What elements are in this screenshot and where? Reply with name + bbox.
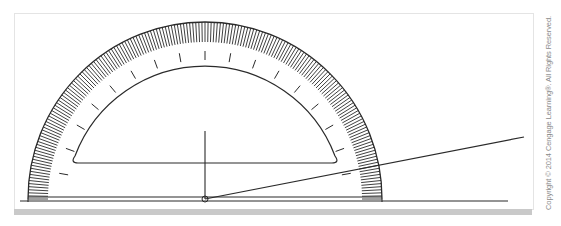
degree-mark — [219, 23, 221, 43]
degree-mark — [360, 171, 380, 174]
degree-mark — [353, 141, 372, 148]
degree-mark — [310, 67, 323, 82]
degree-mark — [69, 85, 84, 98]
degree-mark — [354, 144, 373, 150]
degree-mark — [76, 78, 91, 92]
degree-mark — [361, 184, 381, 186]
degree-mark — [144, 33, 151, 52]
degree-mark — [357, 153, 376, 158]
degree-mark — [199, 22, 200, 42]
degree-mark — [246, 28, 251, 47]
degree-mark — [230, 24, 233, 44]
angle-ray — [205, 137, 524, 199]
degree-mark — [320, 78, 335, 92]
ten-degree-tick — [77, 125, 85, 130]
ten-degree-tick — [325, 125, 333, 130]
degree-mark — [306, 63, 319, 78]
degree-mark — [28, 193, 48, 194]
degree-mark — [259, 33, 266, 52]
degree-mark — [180, 24, 183, 44]
degree-mark — [84, 70, 98, 85]
degree-mark — [325, 85, 340, 98]
ten-degree-tick — [110, 86, 116, 93]
protractor-diagram — [0, 0, 561, 226]
frame-border — [15, 14, 534, 210]
degree-mark — [362, 187, 382, 188]
degree-mark — [153, 30, 159, 49]
degree-mark — [34, 153, 53, 158]
ten-degree-tick — [294, 86, 300, 93]
ten-degree-tick — [311, 104, 318, 110]
degree-mark — [360, 174, 380, 177]
degree-mark — [30, 174, 50, 177]
degree-mark — [353, 138, 372, 145]
degree-mark — [213, 22, 214, 42]
degree-mark — [196, 22, 197, 42]
degree-mark — [147, 32, 154, 51]
degree-mark — [78, 76, 92, 90]
degree-mark — [227, 24, 230, 44]
degree-mark — [361, 177, 381, 179]
degree-mark — [73, 81, 88, 94]
degree-mark — [29, 177, 49, 179]
degree-mark — [308, 65, 321, 80]
degree-mark — [251, 30, 257, 49]
ten-degree-tick — [66, 148, 74, 151]
degree-mark — [82, 72, 96, 86]
degree-mark — [186, 23, 188, 43]
degree-mark — [29, 184, 49, 186]
ten-degree-tick — [131, 71, 136, 79]
degree-mark — [28, 187, 48, 188]
degree-mark — [142, 34, 149, 53]
degree-mark — [35, 150, 54, 156]
degree-mark — [80, 74, 94, 88]
degree-mark — [362, 190, 382, 191]
degree-mark — [356, 150, 375, 156]
ten-degree-tick — [229, 53, 231, 62]
degree-mark — [352, 136, 371, 143]
bottom-band — [14, 209, 532, 215]
degree-mark — [256, 32, 263, 51]
ten-degree-tick — [92, 104, 99, 110]
ten-degree-tick — [275, 71, 280, 79]
ten-degree-tick — [59, 173, 68, 175]
degree-mark — [30, 171, 50, 174]
degree-mark — [87, 67, 100, 82]
ten-degree-tick — [154, 60, 157, 68]
degree-mark — [362, 193, 382, 194]
degree-mark — [38, 141, 57, 148]
degree-mark — [323, 83, 338, 96]
degree-mark — [248, 29, 254, 48]
ten-degree-tick — [342, 173, 351, 175]
degree-mark — [177, 24, 180, 44]
ten-degree-tick — [179, 53, 181, 62]
degree-mark — [150, 31, 156, 50]
degree-mark — [89, 65, 102, 80]
degree-mark — [318, 76, 332, 90]
degree-mark — [216, 22, 217, 42]
degree-mark — [221, 23, 223, 43]
degree-mark — [36, 147, 55, 153]
degree-mark — [156, 29, 162, 48]
ten-degree-tick — [336, 148, 344, 151]
degree-mark — [39, 138, 58, 145]
degree-mark — [28, 190, 48, 191]
ten-degree-tick — [253, 60, 256, 68]
degree-mark — [159, 28, 164, 47]
degree-mark — [29, 180, 49, 182]
degree-mark — [361, 180, 381, 182]
degree-mark — [210, 22, 211, 42]
degree-mark — [224, 23, 226, 43]
degree-mark — [91, 63, 104, 78]
degree-mark — [37, 144, 56, 150]
degree-mark — [254, 31, 260, 50]
degree-mark — [322, 81, 337, 94]
degree-mark — [261, 34, 268, 53]
degree-mark — [314, 72, 328, 86]
degree-mark — [193, 22, 194, 42]
copyright-notice: Copyright © 2014 Cengage Learning®. All … — [544, 16, 553, 210]
degree-mark — [40, 136, 59, 143]
degree-mark — [312, 70, 326, 85]
degree-mark — [355, 147, 374, 153]
degree-mark — [316, 74, 330, 88]
